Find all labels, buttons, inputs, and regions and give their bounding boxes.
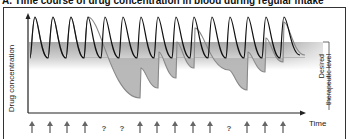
dose-arrow-icon	[190, 121, 196, 133]
dose-arrow-icon	[280, 121, 286, 133]
y-axis-label: Drug concentration	[7, 42, 16, 116]
x-axis-label: Time	[309, 119, 326, 128]
therapeutic-level-label: Desired therapeutic level	[318, 54, 332, 110]
dose-arrow-icon	[29, 121, 35, 133]
plot-area: ???	[0, 0, 349, 139]
dose-arrow-icon	[82, 121, 88, 133]
dose-arrow-icon	[172, 121, 178, 133]
y-axis-arrow-icon	[26, 13, 31, 19]
x-axis-arrow-icon	[300, 111, 306, 116]
missed-dose-marker: ?	[227, 124, 232, 133]
dose-arrow-icon	[47, 121, 53, 133]
dose-arrow-icon	[207, 121, 213, 133]
missed-dose-marker: ?	[120, 124, 125, 133]
dose-arrow-icon	[137, 121, 143, 133]
dose-arrow-icon	[154, 121, 160, 133]
dose-arrow-icon	[64, 121, 70, 133]
dose-arrow-icon	[262, 121, 268, 133]
dose-markers: ???	[29, 121, 286, 133]
missed-dose-marker: ?	[102, 124, 107, 133]
dose-arrow-icon	[244, 121, 250, 133]
